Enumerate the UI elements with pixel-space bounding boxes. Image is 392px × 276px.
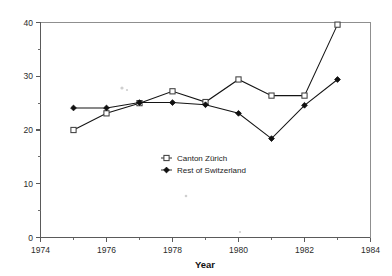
y-tick-label: 20 bbox=[24, 125, 34, 135]
x-tick-label: 1984 bbox=[361, 245, 380, 255]
x-axis-title: Year bbox=[195, 259, 215, 270]
artifact-speck bbox=[126, 89, 128, 91]
chart-canvas: 010203040197419761978198019821984 Canton… bbox=[0, 0, 392, 276]
y-tick-label: 0 bbox=[28, 233, 33, 243]
line-chart: 010203040197419761978198019821984 Canton… bbox=[0, 0, 392, 276]
x-tick-label: 1980 bbox=[229, 245, 248, 255]
x-tick-label: 1974 bbox=[31, 245, 50, 255]
artifact-speck bbox=[120, 86, 123, 89]
data-point-open-square bbox=[71, 127, 76, 132]
data-point-open-square bbox=[335, 22, 340, 27]
chart-background bbox=[0, 0, 392, 276]
data-point-open-square bbox=[104, 111, 109, 116]
legend-label: Canton Zürich bbox=[177, 154, 227, 163]
data-point-open-square bbox=[170, 89, 175, 94]
data-point-open-square bbox=[164, 155, 169, 160]
y-tick-label: 40 bbox=[24, 18, 34, 28]
y-tick-label: 10 bbox=[24, 179, 34, 189]
x-tick-label: 1982 bbox=[295, 245, 314, 255]
artifact-speck bbox=[239, 231, 241, 233]
data-point-open-square bbox=[269, 93, 274, 98]
x-tick-label: 1976 bbox=[97, 245, 116, 255]
data-point-open-square bbox=[236, 77, 241, 82]
artifact-speck bbox=[185, 195, 188, 198]
legend-label: Rest of Switzerland bbox=[177, 166, 246, 175]
data-point-open-square bbox=[302, 93, 307, 98]
x-tick-label: 1978 bbox=[163, 245, 182, 255]
y-tick-label: 30 bbox=[24, 71, 34, 81]
